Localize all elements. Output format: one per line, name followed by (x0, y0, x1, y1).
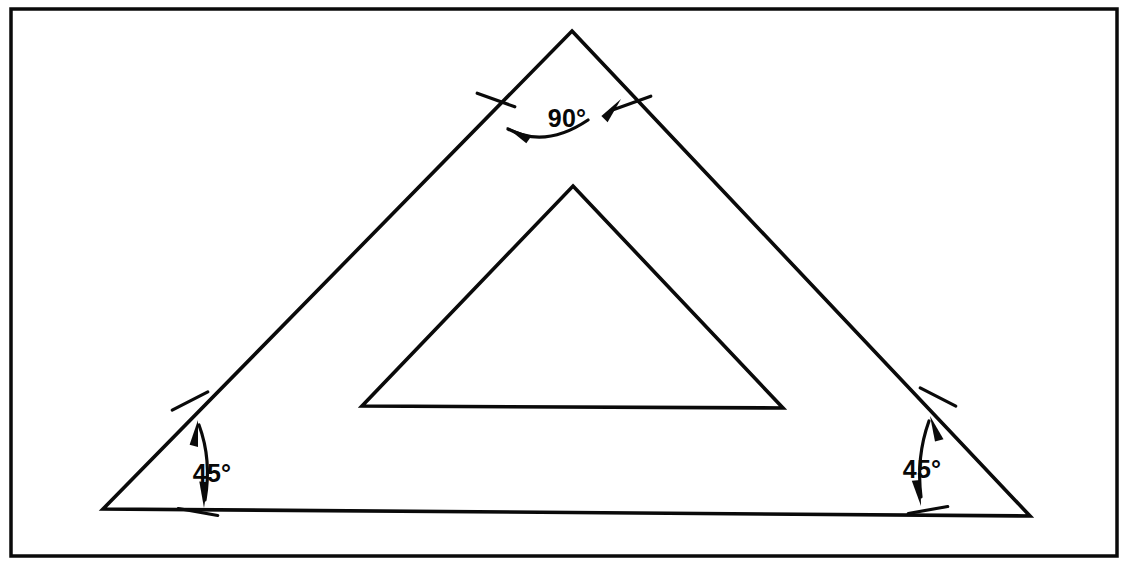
drawing-border (11, 9, 1117, 556)
tick-mark-bottom-right-bottom (908, 507, 947, 514)
angle-label-bottom-right: 45° (903, 455, 941, 483)
angle-label-apex: 90° (548, 104, 586, 132)
inner-triangle (362, 186, 783, 408)
arrowhead-bottom-left-top (190, 420, 198, 447)
figure-canvas: 90° 45° 45° (0, 0, 1129, 569)
angle-label-bottom-left: 45° (193, 459, 231, 487)
technical-drawing: 90° 45° 45° (0, 0, 1129, 569)
arrowhead-apex-right (601, 99, 621, 122)
arrowhead-apex-left (506, 127, 531, 143)
angle-dimension-bottom-right: 45° (903, 388, 956, 514)
arrowhead-bottom-right-bottom (912, 480, 921, 506)
